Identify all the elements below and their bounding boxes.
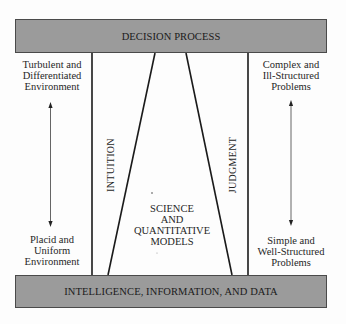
complex-problems-label: Complex and Ill-Structured Problems bbox=[246, 60, 336, 92]
speck-mark bbox=[151, 192, 153, 194]
judgment-label: JUDGMENT bbox=[227, 137, 238, 193]
right-double-arrow-icon bbox=[289, 100, 293, 226]
left-double-arrow-icon bbox=[48, 102, 52, 227]
intelligence-information-data-box: INTELLIGENCE, INFORMATION, AND DATA bbox=[15, 275, 327, 308]
decision-process-label: DECISION PROCESS bbox=[122, 31, 221, 42]
simple-problems-label: Simple and Well-Structured Problems bbox=[246, 236, 336, 268]
science-quantitative-models-label: SCIENCE AND QUANTITATIVE MODELS bbox=[107, 203, 237, 247]
intuition-label: INTUITION bbox=[105, 138, 116, 192]
placid-environment-label: Placid and Uniform Environment bbox=[7, 235, 97, 267]
intelligence-information-data-label: INTELLIGENCE, INFORMATION, AND DATA bbox=[64, 286, 278, 297]
turbulent-environment-label: Turbulent and Differentiated Environment bbox=[7, 60, 97, 92]
speck-mark bbox=[156, 252, 157, 253]
decision-process-box: DECISION PROCESS bbox=[15, 19, 327, 53]
